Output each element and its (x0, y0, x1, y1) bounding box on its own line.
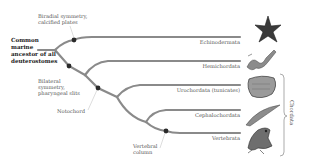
starfish-icon (255, 16, 281, 42)
branch-vertebrata (146, 122, 240, 133)
character-label-radial: Biradial symmetry, calcified plates (38, 13, 87, 25)
leader-notochord (88, 90, 97, 110)
leader-radial (70, 26, 74, 38)
node-dot-notochord (96, 86, 101, 91)
trunk-2 (85, 75, 117, 97)
taxon-label-hemichordata: Hemichordata (202, 63, 240, 69)
frog-icon (248, 128, 272, 154)
node-dot-bilateral (67, 64, 72, 69)
leader-vertebral (160, 133, 165, 148)
node-dot-radial (72, 38, 77, 43)
chordata-bracket (280, 74, 287, 156)
character-label-bilateral: Bilateral symmetry, pharyngeal slits (38, 78, 80, 97)
root-label: Common marine ancestor of all deuterosto… (11, 37, 57, 65)
group-label-chordata: Chordata (289, 100, 295, 125)
character-label-notochord: Notochord (57, 108, 85, 114)
taxon-label-vertebrata: Vertebrata (212, 135, 240, 141)
acorn-worm-icon (247, 50, 276, 70)
taxon-label-urochordata: Urochordata (tunicates) (177, 87, 240, 93)
trunk-1 (55, 50, 85, 75)
node-dot-vertebral (164, 129, 169, 134)
tunicate-icon (248, 76, 276, 97)
taxon-label-echinodermata: Echinodermata (200, 39, 240, 45)
taxon-label-cephalochordata: Cephalochordata (195, 112, 240, 118)
trunk-3 (117, 97, 146, 122)
character-label-vertebral: Vertebral column (133, 143, 158, 155)
lancelet-icon (246, 105, 280, 126)
